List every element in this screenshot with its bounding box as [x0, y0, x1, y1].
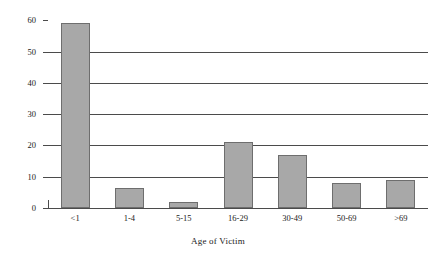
bar-1-4 — [115, 188, 144, 208]
gridline-30 — [48, 114, 428, 115]
y-tick-label-30: 30 — [10, 110, 36, 118]
x-axis-line — [48, 208, 428, 209]
y-axis-spine — [48, 200, 49, 209]
x-tick-label-5-15: 5-15 — [154, 213, 214, 223]
bar-chart-figure: Homicides per Million 0102030405060 Age … — [0, 0, 436, 262]
x-tick-label-<1: <1 — [45, 213, 105, 223]
y-tick-label-20: 20 — [10, 141, 36, 149]
bar-30-49 — [278, 155, 307, 208]
bar-<1 — [61, 23, 90, 208]
y-tick-mark-60 — [43, 20, 48, 21]
y-tick-label-40: 40 — [10, 79, 36, 87]
y-tick-mark-20 — [43, 145, 48, 146]
x-tick-label-16-29: 16-29 — [208, 213, 268, 223]
clipped-caption — [18, 256, 238, 262]
y-tick-mark-30 — [43, 114, 48, 115]
gridline-40 — [48, 83, 428, 84]
x-tick-label->69: >69 — [371, 213, 431, 223]
y-tick-mark-50 — [43, 52, 48, 53]
x-tick-label-1-4: 1-4 — [99, 213, 159, 223]
x-axis-title: Age of Victim — [0, 236, 436, 246]
y-tick-mark-10 — [43, 177, 48, 178]
y-tick-mark-40 — [43, 83, 48, 84]
bar-50-69 — [332, 183, 361, 208]
gridline-50 — [48, 52, 428, 53]
x-tick-label-30-49: 30-49 — [262, 213, 322, 223]
y-tick-label-10: 10 — [10, 173, 36, 181]
plot-area: 0102030405060 — [48, 14, 428, 208]
y-tick-label-60: 60 — [10, 16, 36, 24]
y-tick-label-0: 0 — [10, 204, 36, 212]
y-tick-label-50: 50 — [10, 48, 36, 56]
x-tick-label-50-69: 50-69 — [317, 213, 377, 223]
bar-16-29 — [224, 142, 253, 208]
bar->69 — [386, 180, 415, 208]
